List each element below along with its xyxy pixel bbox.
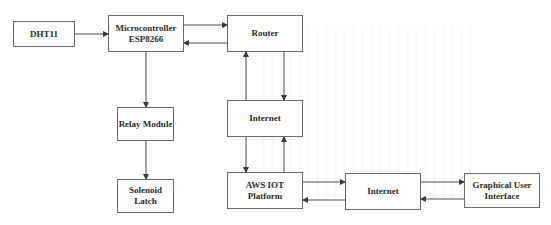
node-label: Graphical User Interface xyxy=(472,180,531,202)
node-internet-gui: Internet xyxy=(345,173,421,210)
node-label: Router xyxy=(252,28,279,39)
node-label: Microcontroller ESP8266 xyxy=(115,23,176,45)
node-gui: Graphical User Interface xyxy=(464,173,540,208)
block-diagram: DHT11 Microcontroller ESP8266 Router Int… xyxy=(0,0,551,225)
node-router: Router xyxy=(227,15,303,52)
node-label: Relay Module xyxy=(119,119,173,130)
node-aws-iot: AWS IOT Platform xyxy=(227,172,303,209)
node-dht11: DHT11 xyxy=(13,21,75,47)
node-microcontroller: Microcontroller ESP8266 xyxy=(108,15,184,52)
node-label: Internet xyxy=(367,186,399,197)
node-label: AWS IOT Platform xyxy=(246,180,284,202)
node-label: Solenoid Latch xyxy=(129,185,162,207)
node-internet-cloud: Internet xyxy=(227,100,303,137)
node-solenoid-latch: Solenoid Latch xyxy=(117,179,174,213)
node-label: DHT11 xyxy=(30,29,58,40)
node-label: Internet xyxy=(249,113,281,124)
node-relay-module: Relay Module xyxy=(117,107,174,141)
